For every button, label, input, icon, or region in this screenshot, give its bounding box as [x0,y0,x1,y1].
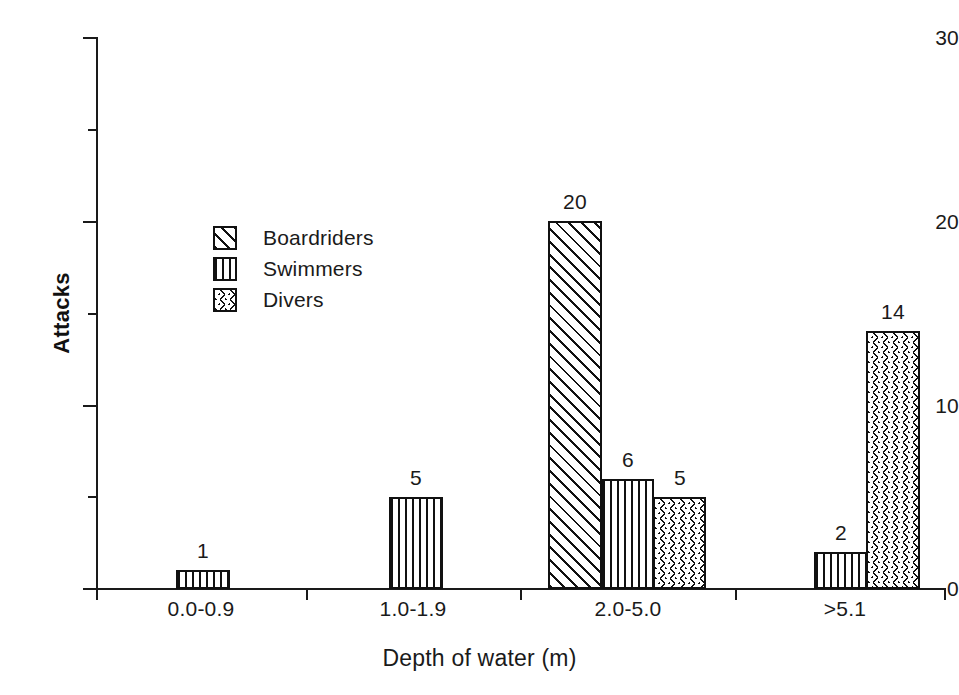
bar-value-boardriders-2.0-5.0: 20 [528,190,622,214]
chart-legend: Boardriders Swimmers Divers [213,222,374,315]
x-tick-1 [306,588,308,600]
y-tick-minor-15 [88,313,96,315]
plot-area: 0 10 20 30 Attacks 0.0-0.9 1.0-1.9 2.0-5… [0,0,959,695]
legend-swatch-swimmers-icon [213,257,237,281]
legend-label-swimmers: Swimmers [263,257,363,281]
x-axis-title: Depth of water (m) [0,645,959,672]
bar-boardriders-2.0-5.0[interactable] [548,221,602,589]
y-tick-label-20: 20 [885,210,959,234]
y-tick-minor-5 [88,496,96,498]
y-axis-line [96,37,98,590]
x-tick-label-1: 1.0-1.9 [333,597,493,621]
bar-swimmers-1.0-1.9[interactable] [389,497,443,589]
y-tick-0 [83,588,96,590]
y-tick-10 [83,405,96,407]
y-tick-30 [83,37,96,39]
y-tick-20 [83,221,96,223]
x-tick-label-0: 0.0-0.9 [121,597,281,621]
legend-label-divers: Divers [263,288,324,312]
bar-divers-2.0-5.0[interactable] [653,497,706,589]
chart-figure: 0 10 20 30 Attacks 0.0-0.9 1.0-1.9 2.0-5… [0,0,959,695]
x-tick-label-2: 2.0-5.0 [548,597,708,621]
x-tick-0 [96,588,98,600]
bar-swimmers->5.1[interactable] [814,552,867,589]
x-tick-2 [520,588,522,600]
legend-swatch-boardriders-icon [213,226,237,250]
legend-swatch-divers-icon [213,288,237,312]
legend-item-swimmers[interactable]: Swimmers [213,253,374,284]
x-tick-3 [735,588,737,600]
legend-label-boardriders: Boardriders [263,226,374,250]
y-tick-label-30: 30 [885,26,959,50]
legend-item-boardriders[interactable]: Boardriders [213,222,374,253]
x-tick-4 [944,588,946,600]
bar-divers->5.1[interactable] [866,331,920,589]
bar-swimmers-2.0-5.0[interactable] [601,479,654,589]
y-axis-title: Attacks [49,243,75,383]
y-tick-minor-25 [88,129,96,131]
x-tick-label-3: >5.1 [785,597,905,621]
bar-value-swimmers-0.0-0.9: 1 [156,539,250,563]
bar-value-swimmers-1.0-1.9: 5 [369,466,463,490]
bar-value-divers-2.0-5.0: 5 [633,466,727,490]
bar-swimmers-0.0-0.9[interactable] [176,570,230,589]
bar-value-divers->5.1: 14 [846,300,940,324]
legend-item-divers[interactable]: Divers [213,284,374,315]
